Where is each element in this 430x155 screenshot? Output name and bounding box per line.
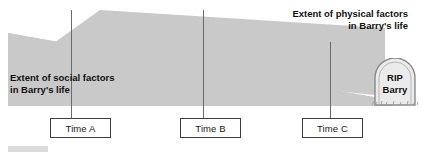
tick-line-time-c — [330, 42, 331, 118]
diagram-canvas: Time A Time B Time C Extent of social fa… — [0, 0, 430, 155]
time-label-c: Time C — [302, 118, 363, 138]
tombstone-rip-text: RIP — [370, 72, 420, 83]
time-label-c-text: Time C — [317, 123, 348, 134]
physical-factors-caption: Extent of physical factors in Barry's li… — [292, 8, 408, 31]
tick-line-time-a — [71, 10, 72, 118]
social-factors-caption: Extent of social factors in Barry's life — [10, 72, 115, 95]
tombstone-name-text: Barry — [370, 84, 420, 95]
tombstone-graphic: RIP Barry — [370, 58, 420, 106]
time-label-b-text: Time B — [195, 123, 225, 134]
tick-line-time-b — [203, 10, 204, 118]
time-label-a: Time A — [50, 118, 111, 138]
time-label-a-text: Time A — [66, 123, 96, 134]
footer-marker-bar — [8, 146, 48, 152]
time-label-b: Time B — [180, 118, 241, 138]
